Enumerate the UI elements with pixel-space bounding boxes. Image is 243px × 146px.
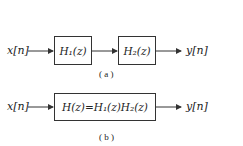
- block-combined-label: H(z)=H₁(z)H₂(z): [62, 101, 148, 113]
- caption-b: ( b ): [99, 132, 114, 142]
- block-h2-label: H₂(z): [123, 45, 150, 57]
- output-signal-label-a: y[n]: [186, 45, 208, 57]
- output-signal-label-b: y[n]: [186, 101, 208, 113]
- block-h1: H₁(z): [54, 36, 92, 65]
- block-h1-label: H₁(z): [59, 45, 86, 57]
- caption-a: ( a ): [99, 69, 114, 79]
- input-signal-label-b: x[n]: [7, 101, 29, 113]
- block-combined: H(z)=H₁(z)H₂(z): [54, 93, 156, 121]
- connector-arrows: [0, 0, 243, 146]
- block-h2: H₂(z): [118, 36, 156, 65]
- input-signal-label-a: x[n]: [7, 45, 29, 57]
